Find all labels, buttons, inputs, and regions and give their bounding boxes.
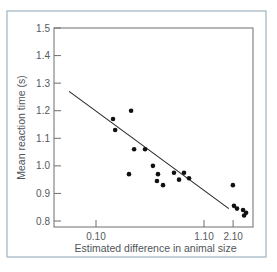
data-point <box>172 170 177 175</box>
y-tick-label: 1.0 <box>36 160 50 171</box>
y-tick-label: 1.1 <box>36 133 50 144</box>
data-point <box>129 108 134 113</box>
x-tick-label: 0.10 <box>86 231 106 242</box>
y-tick-label: 0.8 <box>36 216 50 227</box>
x-tick-label: 2.10 <box>223 231 243 242</box>
data-point <box>187 176 192 181</box>
data-point <box>127 172 132 177</box>
data-point <box>111 117 116 122</box>
data-point <box>182 170 187 175</box>
y-tick-label: 1.2 <box>36 105 50 116</box>
plot-area <box>54 28 253 227</box>
data-point <box>132 147 137 152</box>
data-point <box>235 206 240 211</box>
y-axis-title: Mean reaction time (s) <box>15 75 27 179</box>
data-point <box>113 128 118 133</box>
y-tick-label: 1.5 <box>36 23 50 34</box>
data-point <box>231 183 236 188</box>
scatter-chart: 0.80.91.01.11.21.31.41.5 0.101.102.10 Me… <box>0 0 277 272</box>
data-point <box>155 179 160 184</box>
data-point <box>242 213 247 218</box>
x-axis-title: Estimated difference in animal size <box>74 242 236 254</box>
data-point <box>151 164 156 169</box>
data-point <box>143 147 148 152</box>
data-point <box>161 183 166 188</box>
data-point <box>156 172 161 177</box>
y-tick-label: 1.3 <box>36 78 50 89</box>
y-tick-label: 0.9 <box>36 188 50 199</box>
data-point <box>177 177 182 182</box>
y-tick-label: 1.4 <box>36 50 50 61</box>
x-tick-label: 1.10 <box>194 231 214 242</box>
